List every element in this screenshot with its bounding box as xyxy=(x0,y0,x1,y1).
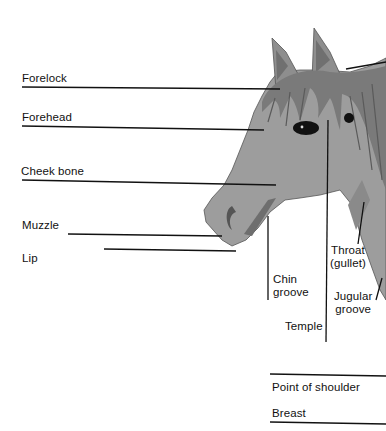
horse-eye xyxy=(293,121,319,135)
label-temple: Temple xyxy=(285,320,323,333)
label-jugular-groove: Jugular groove xyxy=(334,290,372,316)
label-forehead: Forehead xyxy=(22,111,72,124)
label-chin-groove-line1: Chin xyxy=(273,273,309,286)
label-throat: Throat (gullet) xyxy=(330,244,366,270)
label-throat-line2: (gullet) xyxy=(330,257,366,270)
label-muzzle: Muzzle xyxy=(22,219,59,232)
label-jugular-groove-line2: groove xyxy=(334,303,372,316)
label-forelock: Forelock xyxy=(22,72,67,85)
label-breast: Breast xyxy=(272,407,306,420)
label-lip: Lip xyxy=(22,252,38,265)
label-chin-groove: Chin groove xyxy=(273,273,309,299)
label-point-of-shoulder: Point of shoulder xyxy=(272,381,360,394)
horse-anatomy-diagram: Forelock Forehead Cheek bone Muzzle Lip … xyxy=(0,0,386,431)
label-chin-groove-line2: groove xyxy=(273,286,309,299)
temple-dot xyxy=(344,113,354,123)
label-jugular-groove-line1: Jugular xyxy=(334,290,372,303)
label-throat-line1: Throat xyxy=(330,244,366,257)
horse-head-illustration xyxy=(0,0,386,431)
label-cheek-bone: Cheek bone xyxy=(21,165,84,178)
